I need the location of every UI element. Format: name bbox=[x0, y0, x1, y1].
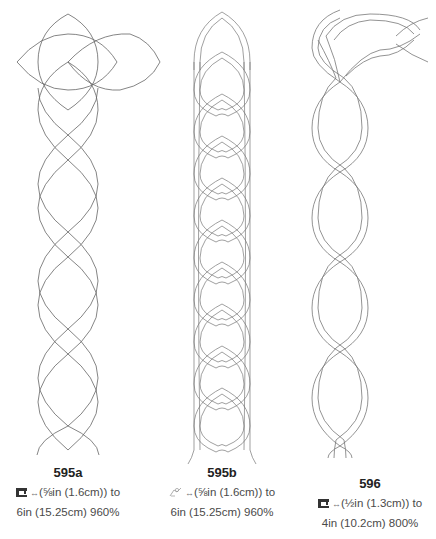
size-range-line1: ↔(⅝in (1.6cm)) to bbox=[6, 483, 130, 503]
quilting-pattern-596 bbox=[0, 0, 436, 539]
hand-quilting-icon bbox=[169, 487, 182, 497]
arrow-icon: ↔ bbox=[185, 488, 193, 498]
caption-595b: 595b ↔(⅝in (1.6cm)) to 6in (15.25cm) 960… bbox=[158, 463, 286, 522]
size-min: (½in (1.3cm)) to bbox=[341, 497, 422, 509]
design-number: 596 bbox=[306, 474, 434, 494]
size-range-line2: 6in (15.25cm) 960% bbox=[158, 503, 286, 522]
size-range-line1: ↔(½in (1.3cm)) to bbox=[306, 494, 434, 514]
size-range-line2: 4in (10.2cm) 800% bbox=[306, 514, 434, 533]
sewing-machine-icon bbox=[16, 488, 27, 497]
size-range-line1: ↔(⅝in (1.6cm)) to bbox=[158, 483, 286, 503]
caption-595a: 595a ↔(⅝in (1.6cm)) to 6in (15.25cm) 960… bbox=[6, 463, 130, 522]
caption-596: 596 ↔(½in (1.3cm)) to 4in (10.2cm) 800% bbox=[306, 474, 434, 533]
size-min: (⅝in (1.6cm)) to bbox=[194, 486, 275, 498]
size-range-line2: 6in (15.25cm) 960% bbox=[6, 503, 130, 522]
design-number: 595b bbox=[158, 463, 286, 483]
arrow-icon: ↔ bbox=[332, 499, 340, 509]
design-number: 595a bbox=[6, 463, 130, 483]
size-min: (⅝in (1.6cm)) to bbox=[39, 486, 120, 498]
arrow-icon: ↔ bbox=[30, 488, 38, 498]
sewing-machine-icon bbox=[318, 499, 329, 508]
